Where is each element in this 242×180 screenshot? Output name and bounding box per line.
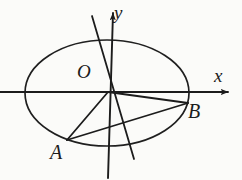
figure-canvas	[0, 0, 242, 180]
point-label-b: B	[188, 101, 200, 121]
y-axis-label: y	[114, 3, 122, 22]
point-label-a: A	[50, 142, 62, 162]
geometry-figure: O A B x y	[0, 0, 242, 180]
y-axis	[108, 13, 113, 178]
segment-OB	[108, 92, 188, 103]
origin-label: O	[77, 62, 91, 81]
x-axis-label: x	[214, 66, 222, 85]
